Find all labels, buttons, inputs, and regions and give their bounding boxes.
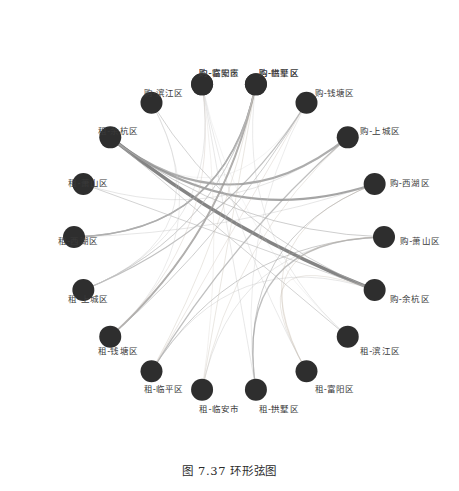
chord-node[interactable] <box>72 173 94 195</box>
chord-link <box>110 84 205 336</box>
chord-link <box>110 84 256 336</box>
chord-node[interactable] <box>63 226 85 248</box>
chord-node[interactable] <box>245 73 267 95</box>
chord-diagram-figure: 购-临安市购-临平区购-钱塘区购-上城区购-西湖区购-萧山区购-余杭区租-滨江区… <box>0 0 459 491</box>
chord-link <box>253 237 384 390</box>
chord-node[interactable] <box>141 92 163 114</box>
chord-node[interactable] <box>191 73 213 95</box>
chord-node[interactable] <box>364 173 386 195</box>
chord-node[interactable] <box>296 92 318 114</box>
figure-caption: 图 7.37 环形弦图 <box>0 462 459 478</box>
chord-link <box>152 277 375 371</box>
chord-node[interactable] <box>191 379 213 401</box>
chord-link <box>253 84 348 336</box>
chord-node[interactable] <box>99 126 121 148</box>
chord-link <box>253 184 375 390</box>
chord-link <box>110 84 256 336</box>
chord-node[interactable] <box>141 360 163 382</box>
chord-link <box>280 275 375 371</box>
chord-node[interactable] <box>245 379 267 401</box>
chords-layer <box>74 84 384 389</box>
chord-node[interactable] <box>296 360 318 382</box>
chord-node[interactable] <box>373 226 395 248</box>
chord-node[interactable] <box>72 279 94 301</box>
chord-node[interactable] <box>337 126 359 148</box>
chord-link <box>152 103 307 371</box>
caption-text: 图 7.37 环形弦图 <box>182 464 277 478</box>
chord-node[interactable] <box>337 326 359 348</box>
chord-node[interactable] <box>364 279 386 301</box>
chord-svg <box>0 0 459 459</box>
chord-link <box>83 103 176 290</box>
chord-node[interactable] <box>99 326 121 348</box>
chord-link <box>202 84 348 336</box>
chord-link <box>152 237 385 371</box>
